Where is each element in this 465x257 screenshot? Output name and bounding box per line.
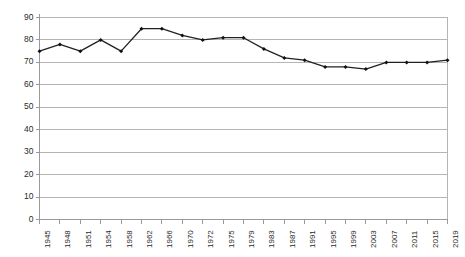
x-axis: [40, 220, 448, 224]
x-axis-tick-label: 1979: [247, 230, 256, 248]
y-axis-tick-label: 40: [12, 125, 34, 134]
x-axis-tick-label: 1987: [288, 230, 297, 248]
y-axis-tick-label: 0: [12, 215, 34, 224]
y-axis-tick-label: 90: [12, 13, 34, 22]
data-point: [323, 65, 327, 69]
x-axis-tick-label: 1954: [104, 230, 113, 248]
x-axis-tick-label: 1975: [227, 230, 236, 248]
data-point: [405, 60, 409, 64]
data-point: [384, 60, 388, 64]
gridlines: [40, 18, 448, 220]
y-axis-tick-label: 10: [12, 192, 34, 201]
y-axis-tick-label: 70: [12, 57, 34, 66]
data-point: [364, 67, 368, 71]
data-point: [180, 33, 184, 37]
x-axis-tick-label: 1962: [145, 230, 154, 248]
data-point: [425, 60, 429, 64]
x-axis-tick-label: 1991: [308, 230, 317, 248]
chart-plot-area: [0, 0, 465, 257]
data-point: [344, 65, 348, 69]
x-axis-tick-label: 2003: [369, 230, 378, 248]
x-axis-tick-label: 1999: [349, 230, 358, 248]
y-axis: [36, 14, 40, 220]
x-axis-tick-label: 2015: [431, 230, 440, 248]
data-point: [160, 27, 164, 31]
data-point: [38, 49, 42, 53]
x-axis-tick-label: 1948: [63, 230, 72, 248]
data-point: [58, 42, 62, 46]
line-chart: 0102030405060708090 19451948195119541958…: [0, 0, 465, 257]
y-axis-tick-label: 50: [12, 102, 34, 111]
y-axis-tick-label: 80: [12, 35, 34, 44]
data-point: [201, 38, 205, 42]
x-axis-tick-label: 1966: [165, 230, 174, 248]
data-point: [221, 36, 225, 40]
y-axis-tick-label: 30: [12, 147, 34, 156]
x-axis-tick-label: 1958: [125, 230, 134, 248]
data-point: [282, 56, 286, 60]
data-point: [303, 58, 307, 62]
y-axis-tick-label: 60: [12, 80, 34, 89]
x-axis-tick-label: 1951: [84, 230, 93, 248]
data-point: [446, 58, 450, 62]
x-axis-tick-label: 1945: [43, 230, 52, 248]
x-axis-tick-label: 2019: [451, 230, 460, 248]
x-axis-tick-label: 2007: [390, 230, 399, 248]
x-axis-tick-label: 2011: [410, 230, 419, 247]
x-axis-tick-label: 1970: [186, 230, 195, 248]
x-axis-tick-label: 1983: [267, 230, 276, 248]
x-axis-tick-label: 1972: [206, 230, 215, 248]
data-point-markers: [38, 27, 450, 71]
y-axis-tick-label: 20: [12, 170, 34, 179]
x-axis-tick-label: 1995: [329, 230, 338, 248]
